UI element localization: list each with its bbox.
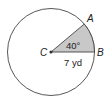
radius-label: 7 yd	[64, 57, 82, 68]
circle-sector-diagram: C A B 40° 7 yd	[0, 0, 108, 96]
point-b-label: B	[97, 47, 104, 58]
center-point	[49, 50, 52, 53]
center-label: C	[40, 47, 48, 58]
point-a-label: A	[86, 13, 94, 24]
angle-label: 40°	[66, 40, 81, 51]
